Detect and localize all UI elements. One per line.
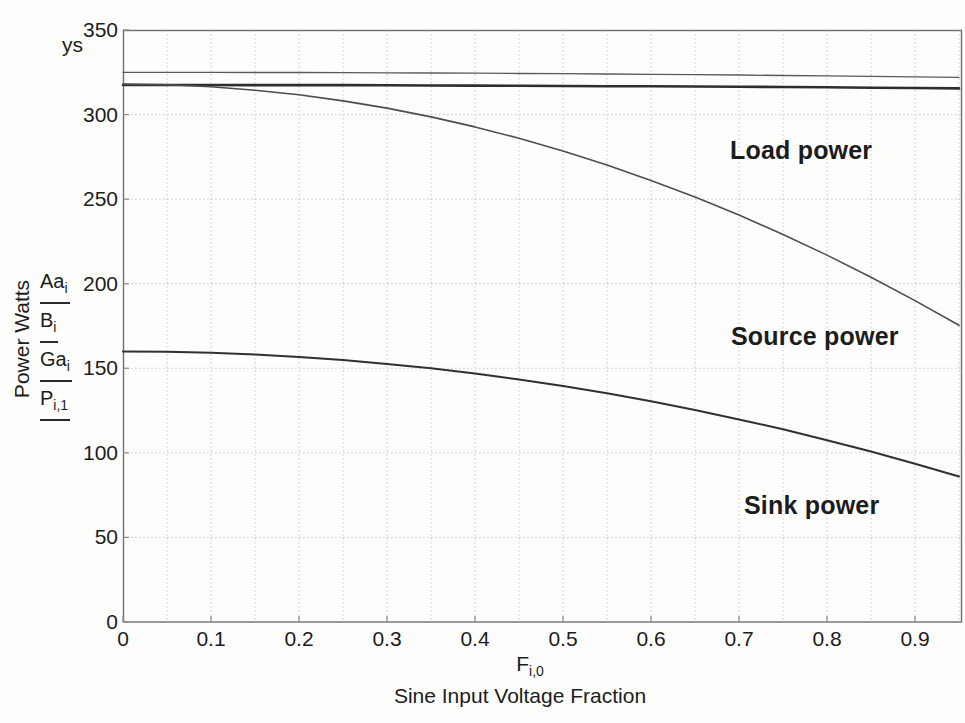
x-tick-label: 0.4 <box>447 629 503 649</box>
y-tick-label: 150 <box>76 358 118 378</box>
y-tick-label: 350 <box>76 20 118 40</box>
y-tick-label: 50 <box>76 527 118 547</box>
y-axis-title: Power Watts <box>10 279 34 399</box>
y-axis-trace-tags: Aai Bi Gai Pi,1 <box>40 271 72 427</box>
x-tick-label: 0.1 <box>183 629 239 649</box>
y-tick-label: 200 <box>76 274 118 294</box>
x-tick-label: 0.5 <box>535 629 591 649</box>
x-tick-label: 0.8 <box>799 629 855 649</box>
series-curve-B[i] <box>123 85 959 88</box>
x-tick-label: 0.3 <box>359 629 415 649</box>
x-tick-label: 0.6 <box>623 629 679 649</box>
data-series-curves <box>123 72 959 476</box>
trace-tag-4: Pi,1 <box>40 388 70 421</box>
trace-tag-2: Bi <box>40 310 58 343</box>
y-tick-label: 250 <box>76 189 118 209</box>
curve-label-sink-power: Sink power <box>744 491 879 520</box>
trace-tag-3: Gai <box>40 349 72 382</box>
chart-canvas: ys Power Watts Aai Bi Gai Pi,1 050100150… <box>0 0 965 723</box>
x-tick-label: 0 <box>95 629 151 649</box>
series-curve-Aa[i] <box>123 72 959 77</box>
series-curve-P[i,1] <box>123 351 959 476</box>
curve-label-source-power: Source power <box>731 322 899 351</box>
series-curve-Ga[i] <box>123 84 959 325</box>
x-axis-variable: Fi,0 <box>498 652 562 679</box>
x-axis-title: Sine Input Voltage Fraction <box>320 684 720 708</box>
x-tick-label: 0.2 <box>271 629 327 649</box>
curve-label-load-power: Load power <box>730 136 872 165</box>
x-tick-label: 0.7 <box>711 629 767 649</box>
y-tick-label: 100 <box>76 443 118 463</box>
y-tick-label: 300 <box>76 105 118 125</box>
trace-tag-1: Aai <box>40 271 70 304</box>
x-tick-label: 0.9 <box>887 629 943 649</box>
plot-area <box>0 0 965 723</box>
